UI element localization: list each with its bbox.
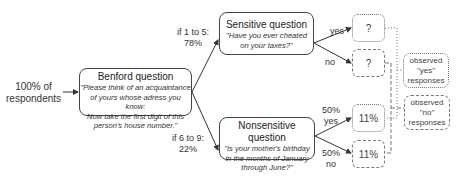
benford-question-line: Now take the first digit of this [80, 112, 191, 122]
observed-no-line2: "no" [405, 108, 449, 118]
start-label: 100% of respondents [6, 81, 61, 105]
observed-yes-line3: responses [404, 76, 448, 86]
branch-lower-percent: 22% [172, 144, 204, 155]
observed-yes-box: observed "yes" responses [403, 53, 449, 88]
nonsensitive-question-line: "Is your mother's birthday [220, 144, 314, 154]
observed-no-line3: responses [405, 118, 449, 128]
observed-yes-line2: "yes" [404, 66, 448, 76]
benford-question-line: "Please think of an acquaintance [80, 83, 191, 93]
nonsensitive-question-line: through June?" [220, 163, 314, 173]
sensitive-yes-label: yes [330, 26, 344, 37]
sensitive-question-box: Sensitive question "Have you ever cheate… [219, 12, 314, 55]
branch-upper-label: if 1 to 5: 78% [177, 27, 209, 49]
branch-lower-label: if 6 to 9: 22% [172, 133, 204, 155]
benford-question-line: of yours whose adress you know: [80, 93, 191, 112]
start-label-line2: respondents [6, 93, 61, 105]
benford-question-line: person's house number." [80, 121, 191, 131]
nonsensitive-no-text: no [322, 159, 340, 170]
nonsensitive-no-outcome: 11% [352, 140, 385, 168]
benford-title: Benford question [80, 71, 191, 83]
sensitive-no-label: no [325, 57, 335, 68]
benford-question-box: Benford question "Please think of an acq… [79, 68, 192, 116]
sensitive-question-line: on your taxes?" [220, 41, 313, 51]
nonsensitive-yes-label: 50% yes [322, 105, 340, 127]
sensitive-question-line: "Have you ever cheated [220, 31, 313, 41]
nonsensitive-yes-percent: 50% [322, 105, 340, 116]
nonsensitive-yes-text: yes [322, 116, 340, 127]
nonsensitive-title: Nonsensitive question [220, 120, 314, 144]
nonsensitive-yes-outcome: 11% [352, 104, 385, 132]
observed-yes-line1: observed [404, 56, 448, 66]
nonsensitive-question-box: Nonsensitive question "Is your mother's … [219, 117, 315, 160]
branch-upper-condition: if 1 to 5: [177, 27, 209, 38]
observed-no-line1: observed [405, 98, 449, 108]
nonsensitive-question-line: in the months of January [220, 154, 314, 164]
sensitive-title: Sensitive question [220, 19, 313, 31]
branch-upper-percent: 78% [177, 38, 209, 49]
nonsensitive-no-label: 50% no [322, 148, 340, 170]
branch-lower-condition: if 6 to 9: [172, 133, 204, 144]
sensitive-no-outcome: ? [352, 49, 385, 77]
sensitive-yes-outcome: ? [352, 14, 385, 42]
start-label-line1: 100% of [6, 81, 61, 93]
nonsensitive-no-percent: 50% [322, 148, 340, 159]
observed-no-box: observed "no" responses [404, 95, 450, 130]
